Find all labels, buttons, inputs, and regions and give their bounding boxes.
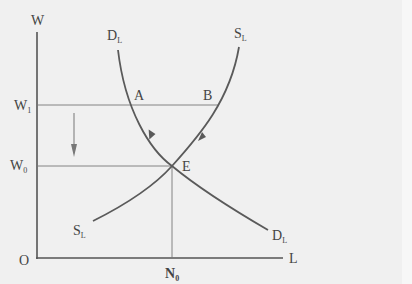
demand-curve <box>118 50 268 230</box>
demand-bottom-label: DL <box>272 228 287 245</box>
demand-top-label: DL <box>107 28 122 45</box>
diagram-canvas: W L O W1 W0 N0 DL DL SL SL A B E <box>0 0 412 284</box>
wage-fall-arrow-icon <box>71 144 77 157</box>
x-axis-label: L <box>289 251 298 266</box>
origin-label: O <box>19 253 29 268</box>
point-a-label: A <box>134 88 145 103</box>
y-axis-label: W <box>31 13 45 28</box>
supply-bottom-label: SL <box>73 223 86 240</box>
w0-label: W0 <box>10 158 27 175</box>
labour-market-diagram: W L O W1 W0 N0 DL DL SL SL A B E <box>0 0 412 284</box>
w1-label: W1 <box>14 98 31 115</box>
point-e-label: E <box>182 159 191 174</box>
supply-curve <box>93 47 239 221</box>
n0-label: N0 <box>165 266 179 283</box>
supply-top-label: SL <box>234 26 247 43</box>
point-b-label: B <box>203 88 212 103</box>
